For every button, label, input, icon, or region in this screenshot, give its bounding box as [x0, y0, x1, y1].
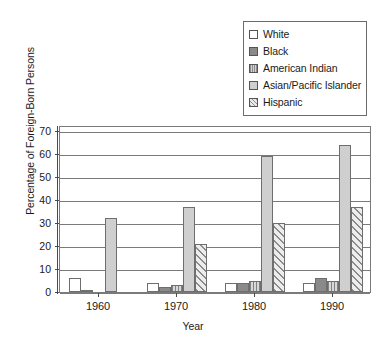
x-axis-tick-label: 1990: [302, 300, 362, 312]
bar-hispanic-1990: [351, 207, 363, 292]
legend-swatch-asian-pacific-islander-icon: [249, 81, 258, 90]
bar-group-1970: [138, 127, 216, 292]
y-axis-tick-label: 10: [23, 264, 51, 274]
chart-legend: White Black American Indian Asian/Pacifi…: [243, 21, 367, 116]
legend-swatch-hispanic-icon: [249, 98, 258, 107]
legend-label: Hispanic: [263, 97, 302, 108]
bar-black-1970: [159, 287, 171, 292]
gridline: [60, 293, 370, 294]
bar-group-1990: [294, 127, 372, 292]
legend-label: White: [263, 29, 289, 40]
bar-asian-pacific-islander-1960: [105, 218, 117, 292]
bar-black-1980: [237, 283, 249, 292]
bar-black-1990: [315, 278, 327, 292]
x-axis-tick-mark: [332, 293, 333, 297]
bar-asian-pacific-islander-1980: [261, 156, 273, 292]
bar-group-1960: [60, 127, 138, 292]
bar-american-indian-1990: [327, 281, 339, 293]
legend-swatch-white-icon: [249, 30, 258, 39]
y-axis-tick-label: 60: [23, 149, 51, 159]
bar-american-indian-1970: [171, 285, 183, 292]
y-axis-tick-label: 70: [23, 126, 51, 136]
legend-swatch-black-icon: [249, 47, 258, 56]
legend-label: American Indian: [263, 63, 337, 74]
bar-hispanic-1980: [273, 223, 285, 292]
plot-frame: [59, 126, 371, 293]
bar-white-1990: [303, 283, 315, 292]
x-axis-tick-mark: [254, 293, 255, 297]
bar-white-1980: [225, 283, 237, 292]
legend-item-black: Black: [249, 44, 360, 59]
bar-black-1960: [81, 290, 93, 292]
y-axis-tick-mark: [55, 200, 59, 201]
y-axis-tick-mark: [55, 154, 59, 155]
x-axis-tick-mark: [176, 293, 177, 297]
x-axis-title: Year: [0, 320, 386, 332]
legend-item-white: White: [249, 27, 360, 42]
y-axis-tick-mark: [55, 246, 59, 247]
y-axis-tick-mark: [55, 292, 59, 293]
bar-asian-pacific-islander-1970: [183, 207, 195, 292]
y-axis-tick-mark: [55, 177, 59, 178]
y-axis-tick-label: 0: [23, 287, 51, 297]
legend-swatch-american-indian-icon: [249, 64, 258, 73]
legend-label: Black: [263, 46, 288, 57]
plot-area: [59, 126, 371, 293]
x-axis-tick-label: 1960: [68, 300, 128, 312]
y-axis-tick-mark: [55, 269, 59, 270]
bar-white-1960: [69, 278, 81, 292]
y-axis-tick-label: 30: [23, 218, 51, 228]
y-axis-tick-label: 50: [23, 172, 51, 182]
y-axis-tick-label: 20: [23, 241, 51, 251]
legend-label: Asian/Pacific Islander: [263, 80, 361, 91]
legend-item-asian-pacific-islander: Asian/Pacific Islander: [249, 78, 360, 93]
x-axis-tick-label: 1980: [224, 300, 284, 312]
bar-american-indian-1980: [249, 281, 261, 293]
bar-hispanic-1970: [195, 244, 207, 292]
x-axis-tick-label: 1970: [146, 300, 206, 312]
y-axis-tick-label: 40: [23, 195, 51, 205]
y-axis-tick-mark: [55, 131, 59, 132]
legend-item-american-indian: American Indian: [249, 61, 360, 76]
y-axis-tick-mark: [55, 223, 59, 224]
bar-asian-pacific-islander-1990: [339, 145, 351, 292]
bar-white-1970: [147, 283, 159, 292]
x-axis-tick-mark: [98, 293, 99, 297]
legend-item-hispanic: Hispanic: [249, 95, 360, 110]
bar-group-1980: [216, 127, 294, 292]
